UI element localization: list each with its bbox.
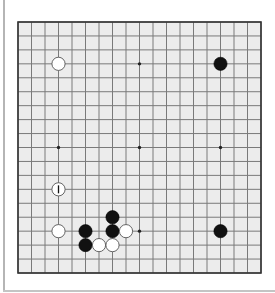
star-point xyxy=(219,146,222,149)
star-point xyxy=(138,229,141,232)
black-stone-circle xyxy=(214,225,227,238)
white-stone-circle xyxy=(92,239,105,252)
white-stone-circle xyxy=(106,239,119,252)
black-stone-circle xyxy=(214,57,227,70)
white-stone-circle xyxy=(52,225,65,238)
white-stone xyxy=(92,239,105,252)
white-stone xyxy=(106,239,119,252)
black-stone xyxy=(106,211,119,224)
white-stone-circle xyxy=(119,225,132,238)
white-stone xyxy=(52,57,65,70)
black-stone xyxy=(106,225,119,238)
black-stone xyxy=(79,239,92,252)
black-stone-circle xyxy=(79,225,92,238)
white-stone xyxy=(119,225,132,238)
white-stone xyxy=(52,225,65,238)
white-stone xyxy=(52,183,65,196)
go-board[interactable] xyxy=(0,0,275,293)
black-stone xyxy=(214,225,227,238)
black-stone xyxy=(79,225,92,238)
white-stone-circle xyxy=(52,57,65,70)
black-stone-circle xyxy=(106,225,119,238)
black-stone xyxy=(214,57,227,70)
star-point xyxy=(138,146,141,149)
black-stone-circle xyxy=(79,239,92,252)
black-stone-circle xyxy=(106,211,119,224)
star-point xyxy=(57,146,60,149)
star-point xyxy=(138,62,141,65)
